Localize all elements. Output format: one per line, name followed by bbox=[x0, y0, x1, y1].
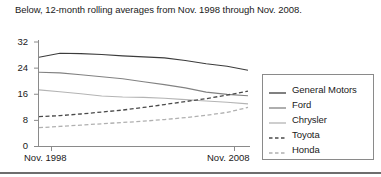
data-series-group bbox=[39, 53, 248, 127]
chart-plot-area: 08162432 Nov. 1998Nov. 2008 General Moto… bbox=[0, 30, 381, 160]
legend-item-honda[interactable]: Honda bbox=[269, 141, 320, 157]
series-line-ford bbox=[39, 72, 248, 96]
legend-item-label: Toyota bbox=[292, 129, 320, 140]
legend-line-swatch bbox=[269, 99, 286, 109]
legend-item-chrysler[interactable]: Chrysler bbox=[269, 111, 327, 127]
legend-line-swatch bbox=[269, 114, 286, 124]
y-axis-tick-label: 32 bbox=[8, 36, 28, 47]
y-axis-tick-label: 24 bbox=[8, 62, 28, 73]
series-line-toyota bbox=[39, 91, 248, 116]
chart-legend: General MotorsFordChryslerToyotaHonda bbox=[262, 74, 374, 160]
legend-item-toyota[interactable]: Toyota bbox=[269, 126, 320, 142]
y-axis-tick-label: 8 bbox=[8, 114, 28, 125]
legend-line-swatch bbox=[269, 84, 286, 94]
y-axis-tick-label: 0 bbox=[8, 140, 28, 151]
x-axis-tick-label: Nov. 2008 bbox=[207, 152, 250, 163]
legend-item-label: Honda bbox=[292, 144, 320, 155]
bottom-divider bbox=[0, 172, 381, 174]
chart-caption: Below, 12-month rolling averages from No… bbox=[15, 4, 302, 16]
series-line-general-motors bbox=[39, 53, 248, 70]
series-line-honda bbox=[39, 107, 248, 127]
y-axis-tick-label: 16 bbox=[8, 88, 28, 99]
legend-line-swatch bbox=[269, 129, 286, 139]
x-axis-tick-label: Nov. 1998 bbox=[24, 152, 67, 163]
legend-item-general-motors[interactable]: General Motors bbox=[269, 81, 357, 97]
legend-item-ford[interactable]: Ford bbox=[269, 96, 311, 112]
legend-item-label: Ford bbox=[292, 99, 311, 110]
legend-item-label: Chrysler bbox=[292, 114, 327, 125]
legend-item-label: General Motors bbox=[292, 84, 357, 95]
legend-line-swatch bbox=[269, 144, 286, 154]
